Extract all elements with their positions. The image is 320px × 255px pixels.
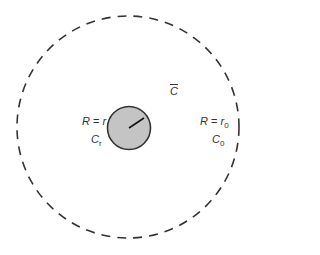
outer-circle-name: C0 xyxy=(212,134,224,148)
inner-radius-label: R = r xyxy=(82,116,106,127)
outer-radius-label: R = r0 xyxy=(200,116,229,130)
region-label-c-bar: C xyxy=(170,86,178,97)
inner-circle-name: Cr xyxy=(91,134,102,148)
